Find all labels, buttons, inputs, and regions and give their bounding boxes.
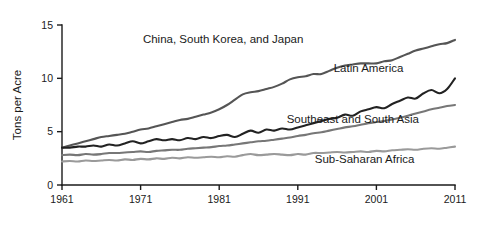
- y-axis: 051015: [41, 19, 62, 191]
- y-tick-label: 5: [47, 125, 53, 137]
- series-label-2: Southeast and South Asia: [287, 113, 420, 125]
- series-label-1: Latin America: [334, 62, 404, 74]
- series-line-0: [62, 40, 455, 148]
- y-axis-title: Tons per Acre: [11, 70, 23, 140]
- series-label-3: Sub-Saharan Africa: [315, 153, 415, 165]
- line-chart: 051015 196119711981199120012011 China, S…: [0, 0, 489, 230]
- series-lines: [62, 40, 455, 162]
- x-tick-label: 1981: [208, 193, 232, 205]
- y-tick-label: 0: [47, 179, 53, 191]
- y-tick-label: 10: [41, 72, 53, 84]
- x-tick-label: 2011: [444, 193, 467, 205]
- chart-container: 051015 196119711981199120012011 China, S…: [0, 0, 489, 230]
- x-tick-label: 1961: [50, 193, 74, 205]
- x-axis: 196119711981199120012011: [50, 185, 466, 205]
- series-labels: China, South Korea, and JapanLatin Ameri…: [143, 33, 420, 164]
- x-tick-label: 1991: [286, 193, 310, 205]
- x-tick-label: 1971: [129, 193, 153, 205]
- series-label-0: China, South Korea, and Japan: [143, 33, 303, 45]
- x-tick-label: 2001: [365, 193, 389, 205]
- y-tick-label: 15: [41, 19, 53, 31]
